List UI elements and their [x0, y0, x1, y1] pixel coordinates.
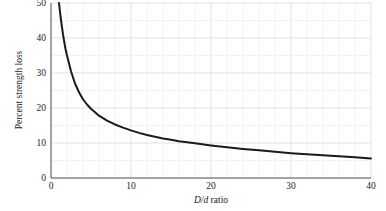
- x-axis-title-part: D: [193, 195, 201, 205]
- x-tick-label: 30: [286, 181, 296, 191]
- y-tick-label: 0: [41, 173, 46, 183]
- y-tick-label: 20: [37, 103, 47, 113]
- y-tick-label: 50: [37, 0, 47, 8]
- y-tick-label: 30: [37, 68, 47, 78]
- x-axis-title-part: ratio: [208, 195, 228, 205]
- chart-canvas: 010203040 01020304050 D/d ratio Percent …: [0, 0, 386, 211]
- y-axis-title: Percent strength loss: [14, 50, 24, 129]
- x-tick-labels: 010203040: [49, 181, 376, 191]
- y-tick-label: 10: [37, 138, 47, 148]
- x-axis-title: D/d ratio: [193, 195, 228, 205]
- x-tick-label: 0: [49, 181, 54, 191]
- x-tick-label: 20: [206, 181, 216, 191]
- gridlines: [51, 3, 371, 178]
- chart-figure: 010203040 01020304050 D/d ratio Percent …: [0, 0, 386, 211]
- y-tick-label: 40: [37, 33, 47, 43]
- x-tick-label: 40: [366, 181, 376, 191]
- x-tick-label: 10: [126, 181, 136, 191]
- y-tick-labels: 01020304050: [37, 0, 47, 183]
